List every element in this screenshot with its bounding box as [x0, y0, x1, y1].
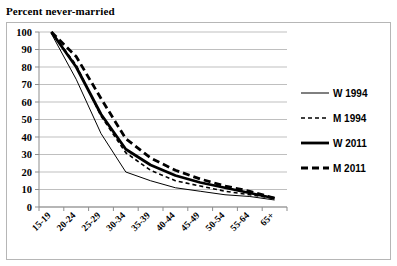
line-chart: 1009080706050403020100 15-1920-2425-2930…	[7, 23, 390, 259]
x-tick-label: 40-44	[154, 210, 177, 233]
y-tick-label: 90	[22, 44, 33, 55]
x-axis-ticks	[39, 207, 287, 211]
y-tick-label: 40	[22, 132, 33, 143]
chart-legend: W 1994M 1994W 2011M 2011	[301, 88, 368, 174]
y-tick-label: 0	[27, 202, 32, 213]
legend-label: W 1994	[333, 88, 368, 99]
y-axis-ticks	[35, 32, 39, 207]
y-tick-label: 30	[22, 149, 33, 160]
x-tick-label: 50-54	[204, 210, 227, 233]
x-tick-label: 45-49	[179, 210, 202, 233]
y-tick-label: 60	[22, 97, 33, 108]
y-tick-label: 70	[22, 79, 33, 90]
legend-label: M 1994	[333, 113, 367, 124]
x-tick-label: 35-39	[129, 210, 152, 233]
x-tick-label: 15-19	[30, 210, 53, 233]
series-line	[51, 32, 274, 198]
series-line	[51, 32, 274, 198]
x-tick-label: 25-29	[80, 210, 103, 233]
y-tick-label: 100	[16, 27, 32, 38]
x-tick-label: 20-24	[55, 210, 78, 233]
x-tick-label: 30-34	[104, 210, 127, 233]
series-line	[51, 32, 274, 198]
y-tick-label: 50	[22, 114, 33, 125]
y-tick-label: 20	[22, 167, 33, 178]
x-axis-labels: 15-1920-2425-2930-3435-3940-4445-4950-54…	[30, 210, 276, 233]
x-tick-label: 55-64	[228, 210, 251, 233]
x-tick-label: 65+	[258, 210, 276, 228]
chart-container: 1009080706050403020100 15-1920-2425-2930…	[6, 22, 391, 260]
y-tick-label: 10	[22, 184, 33, 195]
y-tick-label: 80	[22, 62, 33, 73]
page-title: Percent never-married	[6, 5, 115, 17]
legend-label: M 2011	[333, 163, 366, 174]
series-group	[51, 32, 274, 200]
legend-label: W 2011	[333, 138, 367, 149]
y-axis-labels: 1009080706050403020100	[16, 27, 32, 213]
